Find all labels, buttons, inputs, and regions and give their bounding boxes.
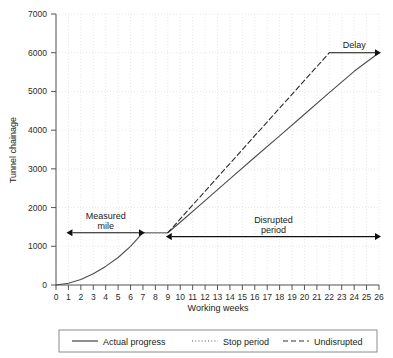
- x-tick-label: 17: [262, 292, 272, 302]
- x-axis-title: Working weeks: [188, 303, 249, 313]
- chart-legend: Actual progressStop periodUndisrupted: [59, 330, 377, 352]
- x-tick-label: 19: [287, 292, 297, 302]
- y-tick-label: 3000: [28, 164, 47, 174]
- y-tick-label: 7000: [28, 9, 47, 19]
- x-tick-label: 13: [213, 292, 223, 302]
- legend-item-label: Actual progress: [103, 337, 166, 347]
- annotation-label: mile: [97, 221, 114, 231]
- chart-figure: 01000200030004000500060007000 0123456789…: [0, 0, 393, 358]
- x-tick-label: 2: [78, 292, 83, 302]
- x-tick-label: 10: [175, 292, 185, 302]
- x-tick-label: 23: [337, 292, 347, 302]
- x-tick-label: 7: [141, 292, 146, 302]
- x-tick-label: 21: [312, 292, 322, 302]
- y-tick-label: 6000: [28, 48, 47, 58]
- chart-svg: 01000200030004000500060007000 0123456789…: [0, 0, 393, 358]
- x-tick-label: 24: [349, 292, 359, 302]
- legend-item-label: Undisrupted: [314, 337, 363, 347]
- x-tick-label: 15: [238, 292, 248, 302]
- annotation-label: Delay: [343, 40, 367, 50]
- x-tick-label: 11: [188, 292, 197, 302]
- x-tick-label: 8: [153, 292, 158, 302]
- x-tick-label: 0: [54, 292, 59, 302]
- y-tick-label: 1000: [28, 241, 47, 251]
- x-tick-label: 25: [362, 292, 372, 302]
- x-tick-label: 20: [300, 292, 310, 302]
- annotation-label: Disrupted: [254, 215, 293, 225]
- y-tick-label: 0: [42, 280, 47, 290]
- annotation-label: period: [261, 225, 286, 235]
- x-tick-label: 22: [325, 292, 335, 302]
- x-tick-label: 26: [374, 292, 384, 302]
- x-tick-label: 12: [200, 292, 210, 302]
- x-tick-label: 14: [225, 292, 235, 302]
- annotation-label: Measured: [86, 211, 126, 221]
- y-axis-title: Tunnel chainage: [8, 117, 18, 183]
- y-tick-label: 4000: [28, 125, 47, 135]
- y-tick-label: 5000: [28, 86, 47, 96]
- x-tick-label: 18: [275, 292, 285, 302]
- x-tick-label: 1: [66, 292, 71, 302]
- x-tick-label: 16: [250, 292, 260, 302]
- x-tick-label: 5: [116, 292, 121, 302]
- x-tick-label: 9: [165, 292, 170, 302]
- y-tick-label: 2000: [28, 203, 47, 213]
- legend-item-label: Stop period: [223, 337, 269, 347]
- x-tick-label: 6: [128, 292, 133, 302]
- x-tick-label: 3: [91, 292, 96, 302]
- x-tick-label: 4: [103, 292, 108, 302]
